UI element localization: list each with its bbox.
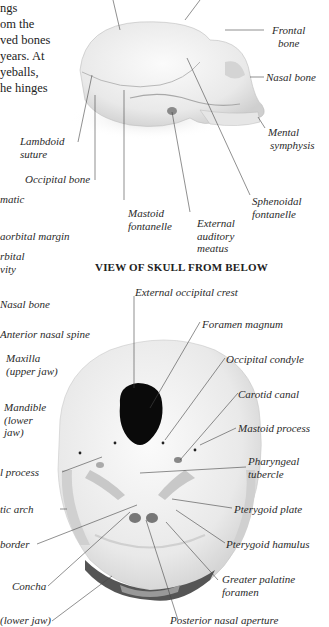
label-line: Frontal: [272, 24, 305, 37]
label-line: meatus: [197, 242, 235, 255]
label-external-auditory-meatus: External auditory meatus: [197, 217, 235, 255]
label-mastoid-fontanelle: Mastoid fontanelle: [128, 207, 172, 232]
label-occipital-condyle: Occipital condyle: [226, 353, 304, 366]
label-line: vity: [0, 263, 24, 276]
label-line: fontanelle: [128, 220, 172, 233]
label-zygomatic: matic: [0, 193, 24, 206]
label-line: Mandible: [4, 401, 46, 414]
label-line: External: [197, 217, 235, 230]
label-frontal-bone: Frontal bone: [272, 24, 305, 49]
label-zygomatic-arch: tic arch: [0, 503, 34, 516]
label-line: bone: [272, 37, 305, 50]
label-mastoid-process: Mastoid process: [238, 422, 310, 435]
label-line: Mastoid: [128, 207, 172, 220]
label-sphenoidal-fontanelle: Sphenoidal fontanelle: [252, 195, 302, 220]
label-line: jaw): [4, 426, 46, 439]
section-title-view-from-below: VIEW OF SKULL FROM BELOW: [95, 261, 268, 273]
label-orbital-cavity: rbital vity: [0, 250, 24, 275]
label-nasal-bone-below: Nasal bone: [0, 298, 50, 311]
intro-line: om the: [0, 16, 50, 32]
label-line: Pharyngeal: [248, 455, 299, 468]
label-line: Lambdoid: [20, 135, 65, 148]
label-line: (upper jaw): [6, 365, 58, 378]
label-line: auditory: [197, 230, 235, 243]
label-line: rbital: [0, 250, 24, 263]
label-greater-palatine-foramen: Greater palatine foramen: [222, 573, 295, 598]
label-pharyngeal-tubercle: Pharyngeal tubercle: [248, 455, 299, 480]
intro-paragraph: ngs om the ved bones years. At yeballs, …: [0, 0, 50, 96]
label-concha: Concha: [12, 580, 46, 593]
label-external-occipital-crest: External occipital crest: [135, 286, 238, 299]
label-carotid-canal: Carotid canal: [238, 388, 299, 401]
label-line: symphysis: [268, 139, 315, 152]
label-border: border: [0, 538, 30, 551]
label-lower-jaw: (lower jaw): [0, 614, 51, 627]
label-line: suture: [20, 148, 65, 161]
intro-line: years. At: [0, 48, 50, 64]
label-line: tubercle: [248, 468, 299, 481]
label-line: foramen: [222, 586, 295, 599]
label-line: fontanelle: [252, 208, 302, 221]
label-mandible: Mandible (lower jaw): [4, 401, 46, 439]
label-maxilla: Maxilla (upper jaw): [6, 352, 58, 377]
intro-line: ngs: [0, 0, 50, 16]
label-infraorbital-margin: aorbital margin: [0, 230, 70, 243]
label-line: Maxilla: [6, 352, 58, 365]
label-line: (lower: [4, 414, 46, 427]
label-line: Greater palatine: [222, 573, 295, 586]
label-foramen-magnum: Foramen magnum: [202, 318, 283, 331]
label-nasal-bone-side: Nasal bone: [266, 71, 316, 84]
label-anterior-nasal-spine: Anterior nasal spine: [0, 328, 90, 341]
intro-line: yeballs,: [0, 64, 50, 80]
label-styloid-process: l process: [0, 466, 39, 479]
label-mental-symphysis: Mental symphysis: [268, 126, 315, 151]
intro-line: ved bones: [0, 32, 50, 48]
label-occipital-bone: Occipital bone: [25, 173, 90, 186]
side-view-skull: [70, 22, 264, 140]
label-line: Sphenoidal: [252, 195, 302, 208]
label-pterygoid-plate: Pterygoid plate: [234, 503, 302, 516]
intro-line: he hinges: [0, 80, 50, 96]
label-posterior-nasal-aperture: Posterior nasal aperture: [170, 614, 278, 627]
label-pterygoid-hamulus: Pterygoid hamulus: [226, 538, 309, 551]
label-line: Mental: [268, 126, 315, 139]
label-lambdoid-suture: Lambdoid suture: [20, 135, 65, 160]
